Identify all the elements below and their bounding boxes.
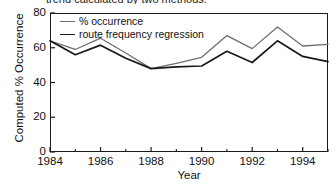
chart-legend: % occurrenceroute frequency regression	[60, 16, 210, 42]
legend-label: % occurrence	[79, 16, 143, 27]
x-tick-label: 1990	[182, 155, 222, 167]
y-axis-title: Computed % Occurrence	[13, 3, 25, 153]
chart-figure: trend calculated by two methods. 0204060…	[0, 0, 336, 185]
y-tick-label: 40	[22, 77, 46, 89]
legend-label: route frequency regression	[79, 29, 204, 40]
legend-line-icon	[60, 34, 75, 35]
x-tick-label: 1986	[81, 155, 121, 167]
x-tick-label: 1992	[232, 155, 272, 167]
x-axis-tick-labels: 198419861988199019921994	[0, 155, 336, 169]
legend-item: route frequency regression	[60, 29, 210, 40]
x-tick-label: 1984	[30, 155, 70, 167]
y-tick-label: 60	[22, 42, 46, 54]
y-tick-label: 20	[22, 111, 46, 123]
y-tick-label: 80	[22, 7, 46, 19]
x-tick-label: 1988	[131, 155, 171, 167]
x-axis-title: Year	[50, 169, 328, 181]
legend-item: % occurrence	[60, 16, 210, 27]
legend-line-icon	[60, 21, 75, 22]
x-tick-label: 1994	[283, 155, 323, 167]
